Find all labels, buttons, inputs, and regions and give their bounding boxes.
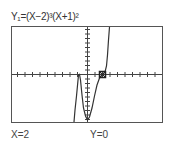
trace-y-value: Y=0 xyxy=(90,129,108,140)
graph-window xyxy=(0,0,169,146)
trace-x-value: X=2 xyxy=(11,129,29,140)
